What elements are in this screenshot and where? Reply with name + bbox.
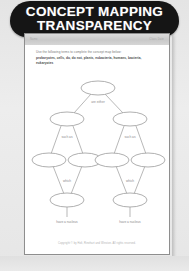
edge-label-left-such-as: such as <box>62 135 73 139</box>
edge-label-are-either: are either <box>91 100 105 104</box>
title-line-2: TRANSPARENCY <box>37 19 152 34</box>
leaf-caption-right: have a nucleus <box>119 220 141 224</box>
map-node-l3c <box>95 153 129 167</box>
masthead-name-field: Name <box>30 38 38 41</box>
masthead-class-date-field: Class Date <box>149 38 164 41</box>
map-node-root <box>81 81 115 95</box>
edge-label-right-which: which <box>126 179 134 183</box>
map-node-l4b <box>113 193 147 207</box>
edge-label-left-which: which <box>63 179 71 183</box>
page-footer: Copyright © by Holt, Rinehart and Winsto… <box>25 242 169 245</box>
map-node-l3d <box>131 153 165 167</box>
page-masthead: Name Class Date <box>25 34 169 45</box>
word-bank: prokaryotes, cells, do, do not, plants, … <box>36 56 159 65</box>
title-line-1: CONCEPT MAPPING <box>26 5 163 20</box>
edge-label-right-such-as: such as <box>125 135 136 139</box>
scan-bottom-margin <box>0 256 189 271</box>
instructions-block: Use the following terms to complete the … <box>36 50 159 65</box>
leaf-caption-left: have a nucleus <box>56 220 78 224</box>
map-node-l4a <box>50 193 84 207</box>
map-node-l3a <box>32 153 66 167</box>
title-banner: CONCEPT MAPPING TRANSPARENCY <box>10 1 179 37</box>
instruction-prompt: Use the following terms to complete the … <box>36 50 159 54</box>
map-node-l2a <box>50 112 84 126</box>
worksheet-page: Name Class Date Use the following terms … <box>24 33 170 255</box>
map-node-l2b <box>113 112 147 126</box>
concept-map: are either such as such as which which h… <box>29 76 167 236</box>
